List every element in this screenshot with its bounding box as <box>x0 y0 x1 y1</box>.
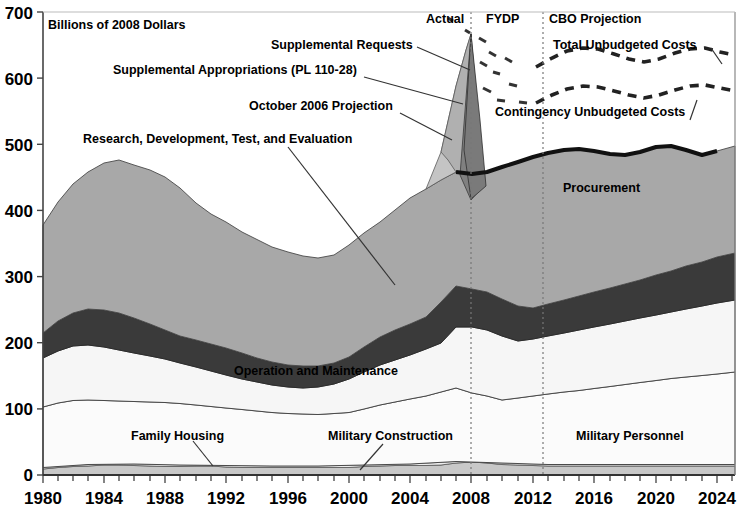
x-tick-1984: 1984 <box>85 489 123 508</box>
y-tick-400: 400 <box>5 202 33 221</box>
y-tick-200: 200 <box>5 334 33 353</box>
x-minor-ticks <box>43 475 732 483</box>
military-construction-label: Military Construction <box>328 429 453 443</box>
x-tick-2020: 2020 <box>637 489 675 508</box>
x-tick-2016: 2016 <box>575 489 613 508</box>
x-tick-1992: 1992 <box>207 489 245 508</box>
family-housing-label: Family Housing <box>131 429 224 443</box>
x-tick-1996: 1996 <box>269 489 307 508</box>
y-tick-300: 300 <box>5 268 33 287</box>
y-tick-100: 100 <box>5 400 33 419</box>
y-ticks <box>37 12 43 475</box>
operation-and-maintenance-label: Operation and Maintenance <box>234 364 398 378</box>
total-unbudgeted-costs-label: Total Unbudgeted Costs <box>553 38 697 52</box>
y-tick-labels: 700 600 500 400 300 200 100 0 <box>5 4 33 485</box>
cbo-projection-label: CBO Projection <box>549 12 641 26</box>
october-2006-projection-label: October 2006 Projection <box>249 99 393 113</box>
x-tick-2024: 2024 <box>698 489 736 508</box>
supplemental-requests-label: Supplemental Requests <box>271 38 413 52</box>
supplemental-appropriations-label: Supplemental Appropriations (PL 110-28) <box>113 63 357 77</box>
procurement-label: Procurement <box>563 181 641 195</box>
chart-root: 700 600 500 400 300 200 100 0 198 <box>0 0 740 525</box>
actual-label: Actual <box>426 12 464 26</box>
x-tick-2004: 2004 <box>391 489 429 508</box>
x-tick-2012: 2012 <box>514 489 552 508</box>
y-axis-title: Billions of 2008 Dollars <box>48 18 186 32</box>
y-tick-700: 700 <box>5 4 33 23</box>
y-tick-500: 500 <box>5 136 33 155</box>
military-personnel-label: Military Personnel <box>576 429 684 443</box>
x-tick-2000: 2000 <box>330 489 368 508</box>
fydp-label: FYDP <box>486 12 519 26</box>
stacked-area-chart: 700 600 500 400 300 200 100 0 198 <box>0 0 740 525</box>
contingency-unbudgeted-costs-label: Contingency Unbudgeted Costs <box>495 105 685 119</box>
x-tick-2008: 2008 <box>452 489 490 508</box>
x-tick-1988: 1988 <box>146 489 184 508</box>
x-tick-1980: 1980 <box>24 489 62 508</box>
rdte-label: Research, Development, Test, and Evaluat… <box>83 132 352 146</box>
y-tick-600: 600 <box>5 70 33 89</box>
y-tick-0: 0 <box>24 466 33 485</box>
x-tick-labels: 1980 1984 1988 1992 1996 2000 2004 2008 … <box>24 489 736 508</box>
